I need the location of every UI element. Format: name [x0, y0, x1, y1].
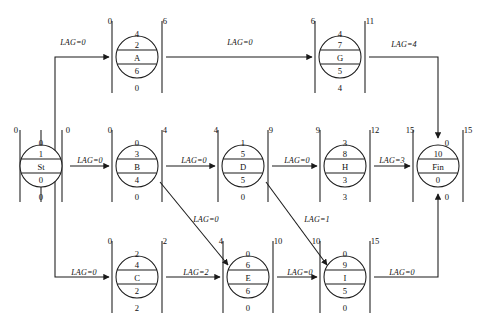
- node-h-top: 3: [343, 138, 347, 148]
- node-st-label: St: [37, 162, 45, 172]
- node-a[interactable]: 0 6 4 2 A 6 0: [108, 16, 168, 93]
- node-b-top: 0: [135, 138, 139, 148]
- node-g-label: G: [337, 53, 343, 63]
- edge-i-fin: [374, 194, 438, 277]
- node-e-early-finish: 10: [274, 236, 283, 246]
- node-d[interactable]: 4 9 1 5 D 5 0: [214, 125, 273, 202]
- node-st-lower: 0: [39, 175, 43, 185]
- lag-label-st-b: LAG=0: [76, 156, 103, 165]
- node-a-bottom: 0: [135, 83, 139, 93]
- node-h-early-finish: 12: [371, 125, 380, 135]
- node-fin-lower: 0: [436, 175, 440, 185]
- node-b-bottom: 0: [135, 192, 139, 202]
- lag-label-b-e: LAG=0: [192, 215, 219, 224]
- node-g-early-start: 6: [311, 16, 316, 26]
- node-i-top: 0: [343, 249, 347, 259]
- node-i[interactable]: 10 15 0 9 I 5 0: [312, 236, 380, 313]
- node-c-lower: 2: [135, 286, 139, 296]
- network-canvas: LAG=0 LAG=0 LAG=4 LAG=0 LAG=0 LAG=0 LAG=…: [0, 0, 479, 331]
- node-g[interactable]: 6 11 4 7 G 5 4: [311, 16, 374, 93]
- lag-label-st-c: LAG=0: [70, 268, 97, 277]
- node-h-early-start: 9: [316, 125, 320, 135]
- node-b-label: B: [134, 162, 140, 172]
- node-i-upper: 9: [343, 260, 347, 270]
- node-d-bottom: 0: [241, 192, 245, 202]
- node-e-lower: 6: [246, 286, 251, 296]
- node-a-label: A: [134, 53, 141, 63]
- node-st-early-start: 0: [14, 125, 18, 135]
- node-g-upper: 7: [338, 40, 343, 50]
- edge-g-fin: [369, 57, 438, 138]
- node-st-early-finish: 0: [66, 125, 70, 135]
- node-b[interactable]: 0 4 0 3 B 4 0: [108, 125, 168, 202]
- network-diagram: LAG=0 LAG=0 LAG=4 LAG=0 LAG=0 LAG=0 LAG=…: [0, 0, 479, 331]
- node-h-lower: 3: [343, 175, 347, 185]
- node-st-upper: 1: [39, 149, 43, 159]
- node-d-early-finish: 9: [269, 125, 273, 135]
- edge-st-c: [55, 166, 109, 277]
- node-b-early-start: 0: [108, 125, 112, 135]
- lag-label-a-g: LAG=0: [226, 38, 253, 47]
- node-g-top: 4: [338, 29, 343, 39]
- node-b-lower: 4: [135, 175, 140, 185]
- node-e-early-start: 4: [219, 236, 224, 246]
- node-d-upper: 5: [241, 149, 245, 159]
- node-fin-early-start: 15: [406, 125, 415, 135]
- lag-label-st-a: LAG=0: [59, 38, 86, 47]
- node-e-label: E: [245, 273, 250, 283]
- node-fin-upper: 10: [434, 149, 443, 159]
- node-c[interactable]: 0 2 2 4 C 2 2: [108, 236, 167, 313]
- node-st[interactable]: 0 0 0 1 St 0 0: [14, 125, 70, 202]
- node-c-early-finish: 2: [163, 236, 167, 246]
- lag-label-i-fin: LAG=0: [388, 268, 415, 277]
- node-c-early-start: 0: [108, 236, 112, 246]
- node-i-early-start: 10: [312, 236, 321, 246]
- node-fin-early-finish: 15: [464, 125, 473, 135]
- lag-label-h-fin: LAG=3: [378, 156, 405, 165]
- node-d-early-start: 4: [214, 125, 219, 135]
- node-d-label: D: [240, 162, 246, 172]
- node-i-label: I: [344, 273, 347, 283]
- node-e[interactable]: 4 10 0 6 E 6 0: [219, 236, 282, 313]
- lag-label-g-fin: LAG=4: [390, 40, 417, 49]
- node-d-top: 1: [241, 138, 245, 148]
- node-h-upper: 8: [343, 149, 347, 159]
- node-i-lower: 5: [343, 286, 347, 296]
- node-a-early-finish: 6: [163, 16, 168, 26]
- node-a-upper: 2: [135, 40, 139, 50]
- node-h-label: H: [342, 162, 348, 172]
- lag-label-d-i: LAG=1: [303, 215, 330, 224]
- node-g-lower: 5: [338, 66, 342, 76]
- node-i-early-finish: 15: [371, 236, 380, 246]
- node-c-bottom: 2: [135, 303, 139, 313]
- node-g-bottom: 4: [338, 83, 343, 93]
- node-c-top: 2: [135, 249, 139, 259]
- node-b-upper: 3: [135, 149, 139, 159]
- node-g-early-finish: 11: [366, 16, 374, 26]
- node-e-upper: 6: [246, 260, 251, 270]
- lag-label-e-i: LAG=0: [286, 268, 313, 277]
- node-c-upper: 4: [135, 260, 140, 270]
- node-h[interactable]: 9 12 3 8 H 3 3: [316, 125, 379, 202]
- node-a-top: 4: [135, 29, 140, 39]
- node-b-early-finish: 4: [163, 125, 168, 135]
- edge-st-a: [55, 57, 109, 166]
- node-st-bottom: 0: [39, 192, 43, 202]
- node-a-early-start: 0: [108, 16, 112, 26]
- node-e-top: 0: [246, 249, 250, 259]
- lag-label-d-h: LAG=0: [283, 156, 310, 165]
- node-a-lower: 6: [135, 66, 140, 76]
- node-fin[interactable]: 15 15 0 10 Fin 0 0: [406, 125, 473, 202]
- node-c-label: C: [134, 273, 140, 283]
- node-fin-bottom: 0: [445, 192, 449, 202]
- lag-label-c-e: LAG=2: [182, 268, 209, 277]
- node-fin-top: 0: [445, 138, 449, 148]
- node-i-bottom: 0: [343, 303, 347, 313]
- node-d-lower: 5: [241, 175, 245, 185]
- node-st-top: 0: [39, 138, 43, 148]
- lag-label-b-d: LAG=0: [180, 156, 207, 165]
- node-e-bottom: 0: [246, 303, 250, 313]
- node-fin-label: Fin: [432, 162, 444, 172]
- node-h-bottom: 3: [343, 192, 347, 202]
